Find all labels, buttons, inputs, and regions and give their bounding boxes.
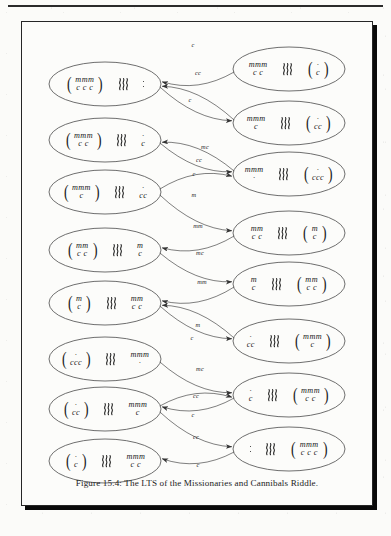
transition-edge [160,253,232,282]
river-waves-icon [267,389,278,402]
bank-bottom-row: c c [253,69,264,78]
transition-edge [160,87,232,121]
bank-bottom-row: c [79,192,83,201]
transition-edge [162,287,234,303]
bank-occupants: ·ccc [312,166,324,183]
river-waves-icon [112,244,123,257]
empty-bank-dots-icon [143,79,144,88]
state-node[interactable]: (·c)mmmc c [49,439,161,483]
bank-occupants: mmmc c [126,453,145,470]
bank-bottom-row: · [253,174,255,183]
state-node[interactable]: (·ccc)mmm· [49,337,161,381]
bank-occupants: mc [251,276,257,293]
river-waves-icon [282,63,293,76]
bank-bottom-row: cc [72,409,80,418]
bank-occupants: ·cc [247,333,255,350]
bank-occupants: mc [312,225,318,242]
river-waves-icon [280,117,291,130]
bank-occupants: mmmc [247,115,266,132]
bank-occupants: mmc c [76,242,89,259]
bank-bottom-row: c c c [301,449,318,458]
bank-occupants: mmmc c [301,387,320,404]
river-waves-icon [116,134,127,147]
state-node[interactable]: (mc)mmc c [49,281,161,325]
transition-label: mm [193,222,203,229]
transition-label: c [190,334,193,341]
transition-label: c [188,96,191,103]
bank-bottom-row: c c [252,233,263,242]
bank-occupants: mmmc c c [75,76,94,93]
bank-bottom-row: cc [247,341,255,350]
transition-label: c [192,170,195,177]
bank-bottom-row: c [77,303,81,312]
transition-label: cc [193,433,199,440]
bank-occupants: mmmc [72,184,91,201]
bank-bottom-row: c [136,409,140,418]
transition-label: mc [196,249,204,256]
river-waves-icon [101,455,112,468]
bank-bottom-row: c [141,140,145,149]
bank-occupants: mmmc [303,333,322,350]
bank-occupants: mmmc [128,401,147,418]
bank-occupants: mmm· [130,351,149,368]
state-node[interactable]: ·cc(mmmc) [233,319,345,363]
bank-bottom-row: c [254,123,258,132]
bank-bottom-row: cc [139,192,147,201]
transition-label: cc [196,156,202,163]
river-waves-icon [103,403,114,416]
state-node[interactable]: (mmmc c)·c [49,118,161,162]
empty-bank-dots-icon [250,444,251,453]
bank-occupants: mmmc c [249,61,268,78]
bank-occupants: mc [137,242,143,259]
transition-label: mm [197,278,207,285]
state-node[interactable]: mc(mmc c) [233,262,345,306]
state-node[interactable]: (mmmc)·cc [49,170,161,214]
bank-occupants: ·cc [139,184,147,201]
bank-bottom-row: · [139,359,141,368]
bank-bottom-row: c c [132,303,143,312]
state-node[interactable]: mmc c(mc) [233,211,345,255]
bank-bottom-row: ccc [70,359,82,368]
bank-occupants: ·c [141,132,145,149]
bank-bottom-row: c [249,395,253,404]
bank-occupants: ·ccc [70,351,82,368]
transition-edge [160,412,232,447]
river-waves-icon [277,227,288,240]
transition-label: mc [196,365,204,372]
state-node[interactable]: mmm·(·ccc) [233,152,345,196]
bank-occupants: mmc c [131,295,144,312]
bank-occupants: ·c [74,453,78,470]
bank-bottom-row: cc [314,123,322,132]
bank-occupants: mc [76,295,82,312]
bank-occupants: mmm· [245,166,264,183]
bank-occupants: ·cc [314,115,322,132]
bank-occupants: mmc c [251,225,264,242]
bank-bottom-row: c c [78,140,89,149]
transition-label: m [192,191,197,198]
bank-bottom-row: c c [77,250,88,259]
transition-label: c [191,41,194,48]
bank-occupants: ·cc [72,401,80,418]
river-waves-icon [265,443,276,456]
page-background: (mmmc c c)(mmmc c)·c(mmmc)·cc(mmc c)mc(m… [0,0,391,536]
state-node[interactable]: (mmc c)mc [49,228,161,272]
transition-label: c [196,461,199,468]
river-waves-icon [271,278,282,291]
bank-bottom-row: ccc [312,174,324,183]
state-node[interactable]: (·cc)mmmc [49,387,161,431]
state-node[interactable]: (mmmc c c) [233,427,345,471]
state-node[interactable]: ·c(mmmc c) [233,373,345,417]
state-node[interactable]: (mmmc c c) [49,62,161,106]
river-waves-icon [269,335,280,348]
river-waves-icon [105,353,116,366]
bank-bottom-row: c [74,461,78,470]
figure-caption: Figure 15.4: The LTS of the Missionaries… [21,478,373,488]
bank-bottom-row: c [313,233,317,242]
state-node[interactable]: mmmc(·cc) [233,101,345,145]
bank-occupants: mmc c [305,276,318,293]
river-waves-icon [114,186,125,199]
bank-bottom-row: c [311,341,315,350]
bank-occupants: mmmc c c [300,441,319,458]
bank-bottom-row: c c c [76,84,93,93]
state-node[interactable]: mmmc c(·c) [233,47,345,91]
